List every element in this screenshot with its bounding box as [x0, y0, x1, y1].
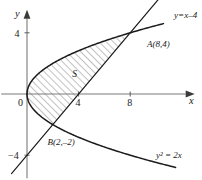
x-axis-label: x	[188, 95, 194, 106]
math-figure: x y 0 4 8 4 −4 y=x–4 A(8,4) B(2,–2) y² =…	[0, 0, 202, 180]
point-a-label: A(8,4)	[146, 39, 170, 49]
x-tick-label-8: 8	[127, 97, 132, 108]
curve-equation-label: y² = 2x	[155, 150, 182, 160]
y-axis-arrow	[24, 10, 31, 19]
line-equation-label: y=x–4	[173, 10, 198, 20]
y-tick-label-4: 4	[15, 28, 20, 39]
shaded-region-s	[27, 33, 130, 125]
y-axis-label: y	[14, 8, 20, 19]
region-label: S	[72, 69, 77, 79]
origin-label: 0	[18, 97, 23, 108]
y-tick-label-neg4: −4	[8, 150, 19, 161]
point-b-label: B(2,–2)	[48, 137, 75, 147]
x-tick-label-4: 4	[76, 97, 81, 108]
